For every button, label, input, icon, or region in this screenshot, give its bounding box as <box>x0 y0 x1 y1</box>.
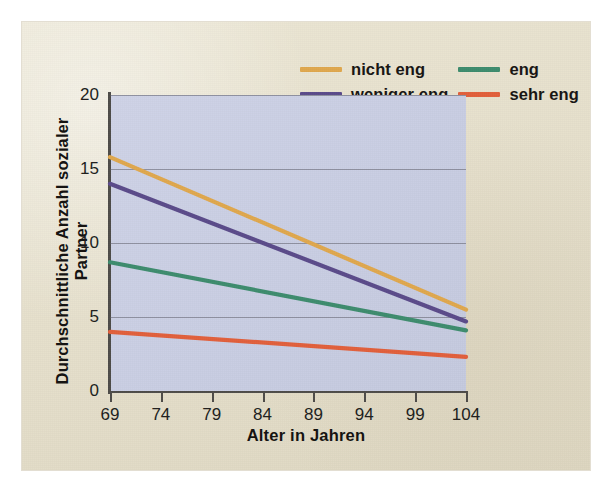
x-axis-title: Alter in Jahren <box>22 426 590 445</box>
x-tick-mark <box>364 391 366 402</box>
x-tick-mark <box>161 391 163 402</box>
x-tick-label: 74 <box>151 405 170 425</box>
series-lines <box>110 95 466 391</box>
x-tick-label: 104 <box>452 405 480 425</box>
legend-swatch-icon-eng <box>458 67 500 72</box>
legend-label-eng: eng <box>509 60 539 79</box>
legend-entry-nicht-eng: nicht eng <box>300 60 448 79</box>
legend-label-sehr-eng: sehr eng <box>509 85 579 104</box>
legend-entry-eng: eng <box>458 60 579 79</box>
x-tick-mark <box>466 391 468 402</box>
legend-swatch-icon-nicht-eng <box>300 67 342 72</box>
y-tick-label: 10 <box>80 233 99 253</box>
x-tick-label: 99 <box>406 405 425 425</box>
y-tick-label: 20 <box>80 85 99 105</box>
y-tick-label: 5 <box>90 307 99 327</box>
figure-panel: nicht eng eng weniger eng sehr eng Durch… <box>22 22 590 470</box>
x-tick-label: 94 <box>355 405 374 425</box>
x-tick-mark <box>212 391 214 402</box>
y-tick-label: 0 <box>90 381 99 401</box>
x-tick-mark <box>415 391 417 402</box>
plot-area-wrapper: 05101520 69747984899499104 <box>110 95 466 391</box>
x-tick-mark <box>313 391 315 402</box>
legend-entry-sehr-eng: sehr eng <box>458 85 579 104</box>
series-line-sehr-eng <box>110 332 466 357</box>
x-tick-label: 84 <box>253 405 272 425</box>
series-line-nicht-eng <box>110 157 466 309</box>
x-tick-label: 79 <box>202 405 221 425</box>
series-line-eng <box>110 262 466 330</box>
legend-label-nicht-eng: nicht eng <box>351 60 425 79</box>
x-tick-label: 89 <box>304 405 323 425</box>
x-tick-mark <box>263 391 265 402</box>
series-line-weniger-eng <box>110 184 466 322</box>
x-tick-label: 69 <box>101 405 120 425</box>
x-tick-mark <box>110 391 112 402</box>
y-tick-label: 15 <box>80 159 99 179</box>
